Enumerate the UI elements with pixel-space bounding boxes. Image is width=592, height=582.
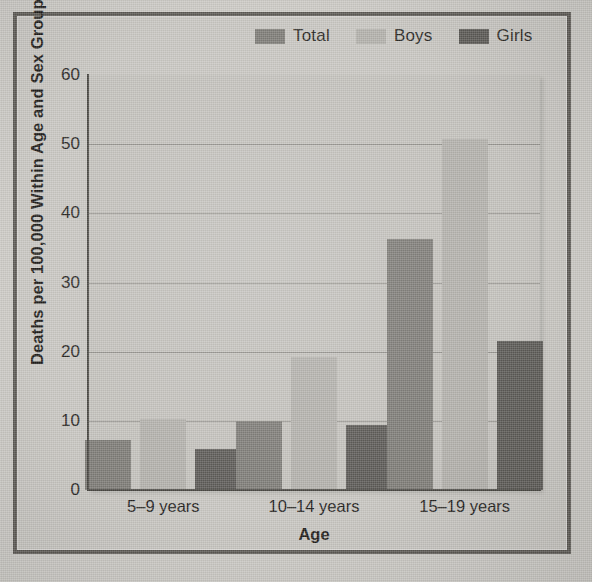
bar-total-group-3 [387,239,433,490]
chart-legend: Total Boys Girls [255,26,532,46]
legend-swatch-boys [356,29,386,44]
y-axis-title: Deaths per 100,000 Within Age and Sex Gr… [28,0,47,378]
bar-boys-group-3 [442,139,488,490]
bar-boys-group-2 [291,357,337,490]
y-axis-line [87,74,89,491]
legend-swatch-total [255,29,285,44]
bar-total-group-1 [85,440,131,490]
legend-label-total: Total [293,26,330,46]
x-axis-line [87,489,541,491]
bar-boys-group-1 [140,419,186,490]
bar-girls-group-3 [497,341,543,490]
bar-series-container [88,75,540,490]
bar-girls-group-2 [346,425,392,490]
legend-label-boys: Boys [394,26,433,46]
x-tick-label-1: 5–9 years [127,497,199,516]
legend-label-girls: Girls [497,26,533,46]
legend-item-total: Total [255,26,330,46]
x-tick-label-3: 15–19 years [419,497,510,516]
x-tick-label-2: 10–14 years [269,497,360,516]
x-axis-title: Age [88,525,540,544]
bar-girls-group-1 [195,449,241,491]
legend-item-boys: Boys [356,26,433,46]
bar-total-group-2 [236,421,282,490]
legend-swatch-girls [459,29,489,44]
legend-item-girls: Girls [459,26,533,46]
